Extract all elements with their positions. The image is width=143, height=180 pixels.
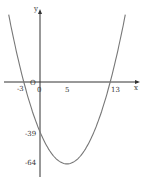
y-intercept-label: -39 xyxy=(25,130,36,138)
y-axis-arrow-icon xyxy=(38,9,42,14)
origin-label: O xyxy=(30,79,36,87)
root-left-label: -3 xyxy=(17,85,24,93)
zero-label: 0 xyxy=(37,86,41,94)
x-axis-label: x xyxy=(134,84,138,92)
y-axis-label: y xyxy=(33,5,38,13)
parabola-chart: x y -3 O 0 5 13 -39 -64 xyxy=(0,0,143,180)
vertex-x-label: 5 xyxy=(65,86,69,94)
root-right-label: 13 xyxy=(111,86,120,94)
vertex-y-label: -64 xyxy=(25,159,37,167)
